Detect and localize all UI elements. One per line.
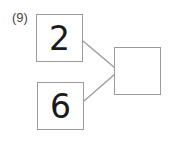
connector-bottom <box>84 74 115 101</box>
number-box-bottom: 6 <box>37 82 84 130</box>
connector-top <box>83 41 115 68</box>
top-number: 2 <box>49 22 70 55</box>
number-box-top: 2 <box>36 14 83 62</box>
problem-number: (9) <box>12 10 28 25</box>
answer-box[interactable] <box>114 47 161 95</box>
bottom-number: 6 <box>50 90 71 123</box>
